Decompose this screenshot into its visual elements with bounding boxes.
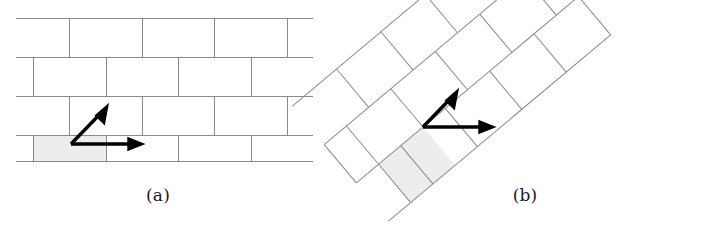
vector-b1-arrowhead bbox=[480, 122, 492, 132]
panel-a bbox=[0, 0, 351, 185]
caption-panel-a: (a) bbox=[108, 183, 208, 207]
head-joint bbox=[534, 34, 566, 72]
panel-b-diagram bbox=[351, 0, 703, 185]
head-joint bbox=[490, 71, 522, 109]
vector-a1-arrowhead bbox=[129, 139, 141, 149]
head-joint bbox=[425, 0, 457, 33]
head-joint bbox=[391, 89, 423, 127]
head-joint bbox=[435, 51, 467, 89]
figure-container: (a) (b) bbox=[0, 0, 703, 233]
head-joint bbox=[524, 0, 556, 15]
head-joint bbox=[381, 32, 413, 70]
panel-b bbox=[351, 0, 703, 185]
lattice-vectors-a bbox=[71, 107, 141, 149]
vector-b2-arrowhead bbox=[447, 92, 457, 107]
head-joint bbox=[480, 14, 512, 52]
caption-panel-b: (b) bbox=[475, 183, 575, 207]
course-line bbox=[324, 0, 546, 145]
panel-a-diagram bbox=[0, 0, 351, 185]
vector-a2-arrowhead bbox=[97, 107, 107, 122]
head-joint bbox=[579, 0, 611, 35]
head-joint bbox=[346, 126, 378, 164]
shaded-brick-a bbox=[34, 136, 107, 162]
